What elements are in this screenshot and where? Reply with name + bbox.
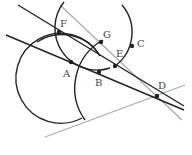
label-G: G xyxy=(103,29,111,40)
gray-line-tangent xyxy=(45,85,185,137)
label-E: E xyxy=(116,48,123,59)
label-A: A xyxy=(62,68,71,79)
label-D: D xyxy=(158,80,166,91)
geometry-diagram: F G A B E C D xyxy=(0,0,192,155)
label-C: C xyxy=(137,38,145,49)
label-B: B xyxy=(95,77,102,88)
gray-line-top xyxy=(60,5,182,120)
line-through-A xyxy=(6,35,184,110)
label-F: F xyxy=(60,18,67,29)
